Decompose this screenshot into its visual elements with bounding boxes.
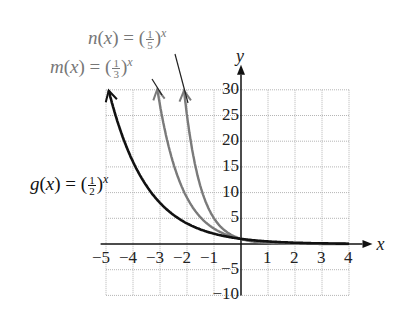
x-tick-label: −3 bbox=[146, 248, 164, 268]
svg-text:y: y bbox=[234, 46, 244, 66]
x-tick-label: 4 bbox=[344, 248, 353, 268]
x-tick-label: −5 bbox=[92, 248, 110, 268]
chart-root: xy n(x) = (15)x m(x) = (13)x g(x) = (12)… bbox=[0, 0, 404, 328]
x-tick-label: 3 bbox=[317, 248, 326, 268]
label-n: n(x) = (15)x bbox=[88, 26, 166, 50]
x-tick-label: −4 bbox=[119, 248, 137, 268]
y-tick-label: −10 bbox=[212, 284, 239, 304]
y-tick-label: 5 bbox=[231, 207, 240, 227]
exponential-functions-plot: xy bbox=[0, 0, 404, 328]
label-g: g(x) = (12)x bbox=[30, 172, 108, 196]
y-tick-label: 20 bbox=[222, 130, 239, 150]
y-tick-label: 15 bbox=[222, 156, 239, 176]
svg-text:x: x bbox=[376, 234, 385, 254]
x-tick-label: 2 bbox=[290, 248, 299, 268]
x-axis-arrow-icon bbox=[363, 240, 373, 248]
y-tick-label: 10 bbox=[222, 182, 239, 202]
x-tick-label: −1 bbox=[200, 248, 218, 268]
y-axis-arrow-icon bbox=[237, 65, 245, 75]
x-tick-label: 1 bbox=[263, 248, 272, 268]
y-tick-label: −5 bbox=[221, 259, 239, 279]
y-tick-label: 25 bbox=[222, 105, 239, 125]
y-tick-label: 30 bbox=[222, 79, 239, 99]
label-m: m(x) = (13)x bbox=[50, 55, 133, 79]
x-tick-label: −2 bbox=[173, 248, 191, 268]
